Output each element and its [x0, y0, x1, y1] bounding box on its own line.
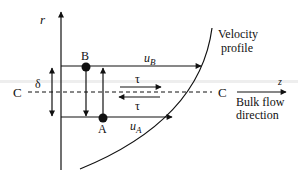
- velocity-a-label: uA: [130, 119, 142, 135]
- delta-label: δ: [35, 77, 41, 91]
- velocity-profile-curve: [80, 28, 212, 169]
- shear-top-label: τ: [135, 72, 140, 86]
- scan-band: [0, 80, 298, 83]
- point-a-label: A: [98, 122, 107, 136]
- centerline-right-label: C: [218, 85, 227, 100]
- velocity-profile-label-line2: profile: [221, 41, 253, 55]
- point-b-label: B: [81, 49, 89, 63]
- velocity-profile-label-line1: Velocity: [218, 27, 258, 41]
- velocity-b-label: uB: [144, 51, 156, 67]
- z-axis-label: z: [277, 76, 282, 87]
- flow-diagram: r Velocity profile B uB A uA δ C C τ τ z…: [0, 0, 298, 179]
- r-axis-label: r: [40, 12, 46, 27]
- bulk-flow-label-line2: direction: [236, 108, 279, 122]
- bulk-flow-label-line1: Bulk flow: [236, 95, 285, 109]
- centerline-left-label: C: [13, 85, 22, 100]
- shear-bottom-label: τ: [135, 99, 140, 113]
